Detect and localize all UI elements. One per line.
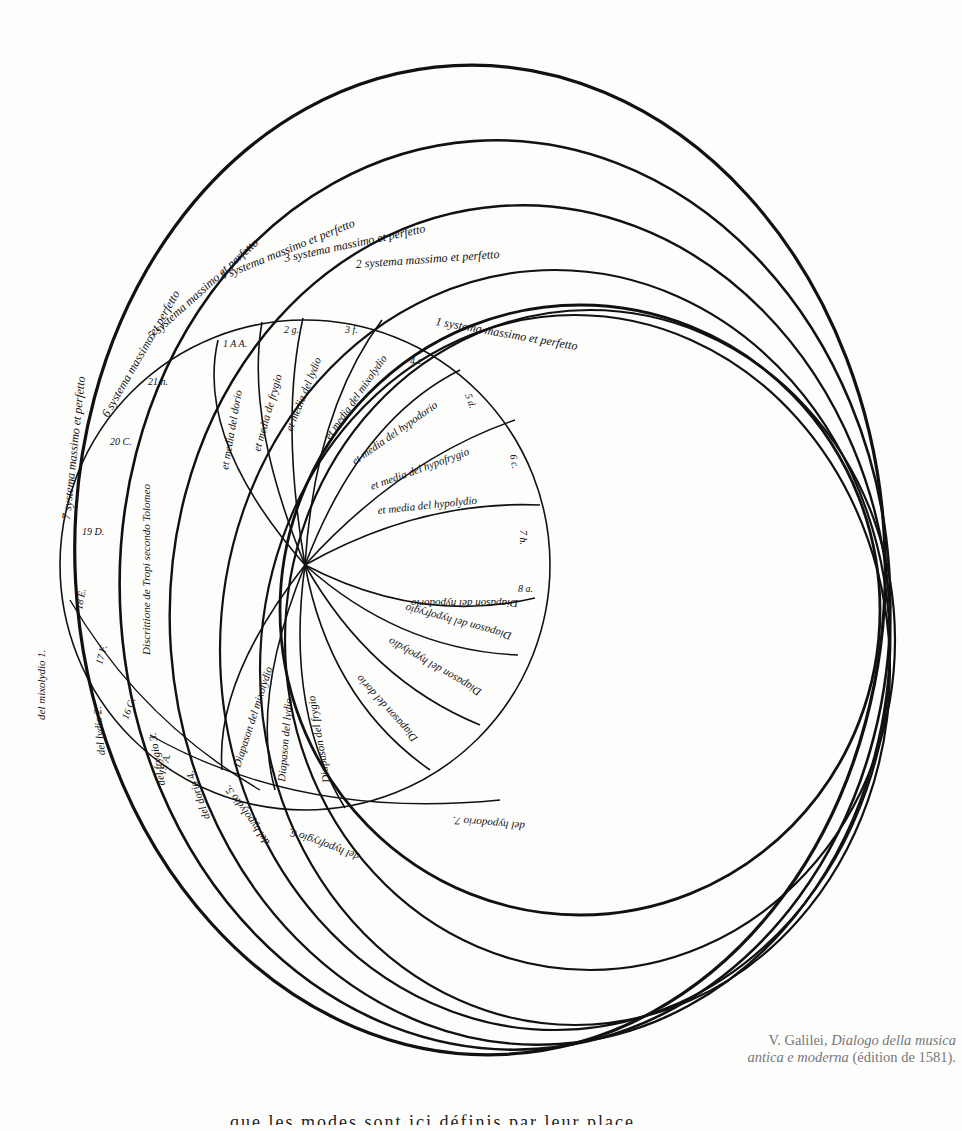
diapason-label-hypolydio: Diapason del hypolydio [386,635,484,699]
lower-label-hypodorio: del hypodorio 7. [452,815,525,833]
marker-21: 21 h. [148,376,168,387]
lower-label-lydio: del lydio 2. [91,706,107,756]
caption-line-2: antica e moderna (édition de 1581). [747,1049,956,1066]
media-label-hypofrygio: et media del hypofrygio [369,445,471,492]
marker-3: 3 f. [344,324,358,335]
marker-1: 1 A A. [223,338,247,349]
radiating-arcs [214,318,540,808]
media-label-frygio: et media de frygio [250,372,284,452]
system-circle-3 [260,315,890,1025]
caption-title-1: Dialogo della musica [831,1032,956,1048]
figure-caption: V. Galilei, Dialogo della musica antica … [747,1032,956,1066]
lower-label-mixolydio: del mixolydio 1. [35,649,47,720]
marker-17: 17 F. [93,644,109,666]
marker-4: 4 e. [410,355,424,366]
marker-5: 5 d. [463,392,478,410]
caption-title-2: antica e moderna [747,1049,848,1065]
system-label-2: 2 systema massimo et perfetto [355,247,500,271]
media-label-hypolydio: et media del hypolydio [377,494,478,516]
marker-6: 6 c. [508,453,521,469]
caption-line-1: V. Galilei, Dialogo della musica [747,1032,956,1049]
diapason-label-dorio: Diapason del dorio [353,673,420,746]
caption-edition: (édition de 1581). [853,1049,957,1065]
diapason-labels: Diapason del hypodorio Diapason del hypo… [230,598,519,785]
media-label-lydio: et media del lydio [283,355,324,433]
galilei-systems-diagram: 1 systema massimo et perfetto 2 systema … [0,0,962,1131]
system-label-6: 6 systema massimo et perfetto [98,288,182,420]
marker-19: 19 D. [82,526,104,537]
diapason-label-lydio: Diapason del lydio [275,697,294,783]
marker-20: 20 C. [110,436,132,447]
marker-7: 7 h. [518,530,529,545]
system-circle-1 [280,305,880,915]
outer-system-circles [50,44,921,1075]
lower-label-hypofrygio: del hypofrygio 6. [286,827,360,864]
center-title: Discrittione de Tropi secondo Tolomeo [140,484,152,656]
caption-author: V. Galilei, [769,1032,828,1048]
lower-label-hypolydio: del hypolydio 5. [221,783,271,848]
system-circle-4 [220,270,890,1030]
system-circle-2 [285,310,895,970]
marker-18: 18 E. [73,588,87,611]
marker-8: 8 a. [518,583,533,594]
marker-2: 2 g. [284,324,299,335]
